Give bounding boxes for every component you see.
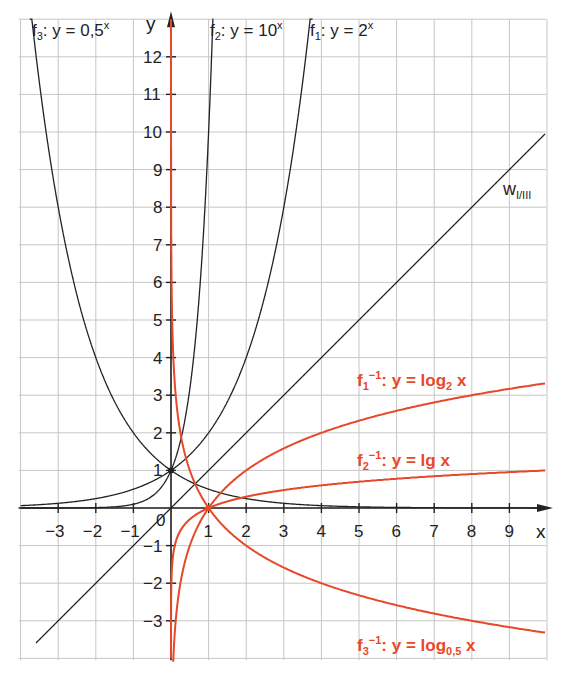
x-tick-label: 6 bbox=[392, 523, 401, 540]
curves bbox=[21, 19, 546, 662]
y-tick-label: 1 bbox=[153, 462, 162, 479]
y-tick-label: 5 bbox=[153, 312, 162, 329]
curve-log10 bbox=[171, 471, 545, 659]
y-tick-label: 9 bbox=[153, 162, 162, 179]
curve-pow10 bbox=[21, 19, 214, 508]
x-tick-label: 3 bbox=[279, 523, 288, 540]
y-tick-label: 10 bbox=[143, 124, 162, 141]
x-tick-label: −1 bbox=[120, 523, 139, 540]
x-tick-label: 9 bbox=[504, 523, 513, 540]
axes bbox=[19, 11, 553, 660]
x-tick-label: 2 bbox=[241, 523, 250, 540]
label-inv2: f2−1: y = lg x bbox=[357, 450, 450, 472]
x-tick-label: 7 bbox=[429, 523, 438, 540]
x-tick-label: −2 bbox=[83, 523, 102, 540]
y-tick-label: 3 bbox=[153, 387, 162, 404]
x-tick-label: 8 bbox=[467, 523, 476, 540]
label-f1: f1: y = 2x bbox=[310, 20, 373, 42]
y-tick-label: −3 bbox=[143, 613, 162, 630]
y-tick-label: 12 bbox=[143, 49, 162, 66]
y-tick-label: 4 bbox=[153, 350, 162, 367]
y-tick-label: 8 bbox=[153, 199, 162, 216]
y-tick-label: 7 bbox=[153, 237, 162, 254]
grid bbox=[19, 19, 547, 660]
x-tick-label: 5 bbox=[354, 523, 363, 540]
y-tick-label: 2 bbox=[153, 425, 162, 442]
y-tick-label: 6 bbox=[153, 274, 162, 291]
y-tick-label: −1 bbox=[143, 538, 162, 555]
label-f2: f2: y = 10x bbox=[210, 20, 283, 42]
y-tick-label: −2 bbox=[143, 575, 162, 592]
origin-label: 0 bbox=[156, 512, 165, 529]
x-tick-label: 4 bbox=[316, 523, 325, 540]
y-tick-label: 11 bbox=[143, 86, 161, 103]
curve-pow05 bbox=[30, 19, 545, 508]
function-graph bbox=[0, 0, 570, 689]
label-w: wI/III bbox=[503, 180, 531, 201]
label-inv1: f1−1: y = log2 x bbox=[357, 370, 466, 392]
y-axis-label: y bbox=[146, 14, 156, 33]
curve-identity bbox=[36, 134, 545, 643]
x-tick-label: 1 bbox=[204, 523, 213, 540]
x-tick-label: −3 bbox=[45, 523, 64, 540]
label-inv3: f3−1: y = log0,5 x bbox=[357, 635, 476, 657]
label-f3: f3: y = 0,5x bbox=[32, 20, 109, 42]
x-axis-label: x bbox=[536, 522, 546, 541]
